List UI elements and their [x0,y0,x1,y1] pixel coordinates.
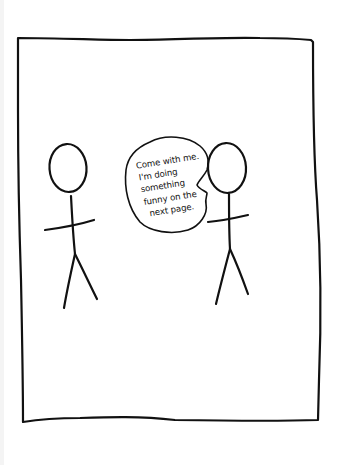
right-figure-left-leg [216,249,230,304]
comic-panel-canvas [0,0,339,465]
right-figure-right-leg [230,249,248,294]
right-figure-arms [208,215,248,222]
panel-border [18,38,320,422]
right-stick-figure [207,142,248,304]
right-figure-head [207,142,248,194]
left-figure-left-leg [64,254,75,308]
left-figure-head [48,143,88,193]
right-figure-body [229,194,230,249]
left-figure-right-leg [75,254,97,299]
left-figure-arms [45,220,94,230]
left-stick-figure [45,143,97,308]
speech-bubble-text: Come with me. I'm doing something funny … [134,149,215,221]
